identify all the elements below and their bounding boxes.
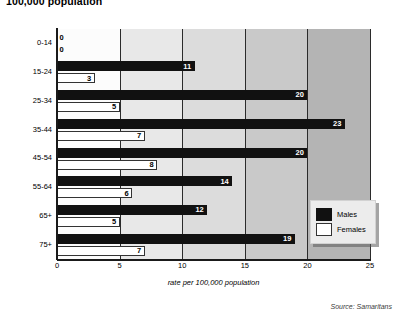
bar-females-65+: 5: [57, 217, 120, 227]
x-axis-tick-0: 0: [55, 262, 59, 270]
chart-title: 100,000 population: [6, 0, 102, 7]
y-axis-label-15-24: 15-24: [4, 68, 52, 76]
x-axis-tick-15: 15: [241, 262, 249, 270]
bar-group: 237: [57, 115, 370, 144]
bar-males-55-64: 14: [57, 176, 232, 186]
y-axis-label-25-34: 25-34: [4, 97, 52, 105]
bar-males-75+: 19: [57, 234, 295, 244]
x-axis-title: rate per 100,000 population: [57, 278, 370, 287]
y-axis-category-labels: 0-1415-2425-3435-4445-5455-6465+75+: [0, 29, 52, 259]
x-axis-tick-10: 10: [178, 262, 186, 270]
source-note: Source: Samaritans: [331, 303, 392, 310]
bar-value-label: 0: [57, 34, 64, 42]
y-axis-label-75+: 75+: [4, 241, 52, 249]
bar-group: 113: [57, 58, 370, 87]
bar-value-label: 7: [137, 247, 144, 255]
y-axis-label-0-14: 0-14: [4, 39, 52, 47]
bar-value-label: 14: [220, 178, 231, 186]
bar-females-75+: 7: [57, 246, 145, 256]
bar-males-35-44: 23: [57, 119, 345, 129]
bar-value-label: 23: [333, 120, 344, 128]
x-axis-line: [57, 259, 371, 261]
bar-males-15-24: 11: [57, 61, 195, 71]
bar-value-label: 5: [112, 103, 119, 111]
bar-females-15-24: 3: [57, 73, 95, 83]
legend-item-males: Males: [316, 208, 371, 221]
bar-group: 205: [57, 87, 370, 116]
bar-value-label: 6: [124, 190, 131, 198]
bar-females-45-54: 8: [57, 160, 157, 170]
y-axis-label-65+: 65+: [4, 212, 52, 220]
legend-swatch-males: [316, 208, 332, 221]
bar-value-label: 19: [283, 235, 294, 243]
bar-females-35-44: 7: [57, 131, 145, 141]
bar-males-25-34: 20: [57, 90, 307, 100]
y-axis-label-55-64: 55-64: [4, 183, 52, 191]
legend: Males Females: [310, 200, 376, 244]
legend-label-females: Females: [337, 226, 366, 234]
bar-value-label: 20: [296, 149, 307, 157]
bar-females-55-64: 6: [57, 188, 132, 198]
bar-males-65+: 12: [57, 205, 207, 215]
bar-value-label: 7: [137, 132, 144, 140]
bar-females-25-34: 5: [57, 102, 120, 112]
y-axis-label-35-44: 35-44: [4, 126, 52, 134]
bar-value-label: 0: [57, 46, 64, 54]
bar-group: 208: [57, 144, 370, 173]
y-axis-label-45-54: 45-54: [4, 154, 52, 162]
bar-value-label: 12: [195, 206, 206, 214]
bar-males-45-54: 20: [57, 148, 307, 158]
bar-value-label: 20: [296, 91, 307, 99]
legend-label-males: Males: [337, 211, 357, 219]
bar-group: 146: [57, 173, 370, 202]
bar-group: 00: [57, 29, 370, 58]
x-axis-tick-25: 25: [366, 262, 374, 270]
bar-value-label: 3: [87, 75, 94, 83]
y-axis-line: [56, 28, 58, 260]
x-axis-tick-labels: 0510152025: [57, 262, 370, 274]
bar-value-label: 5: [112, 218, 119, 226]
legend-item-females: Females: [316, 223, 371, 236]
bar-value-label: 8: [149, 161, 156, 169]
x-axis-tick-20: 20: [303, 262, 311, 270]
bar-value-label: 11: [183, 63, 193, 71]
x-axis-tick-5: 5: [118, 262, 122, 270]
legend-swatch-females: [316, 223, 332, 236]
